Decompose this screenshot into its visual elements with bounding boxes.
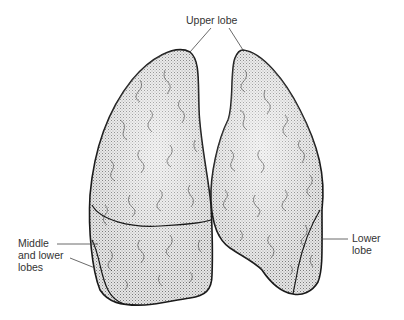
right-lung	[85, 45, 215, 310]
upper-lobe-leader-right	[190, 28, 211, 52]
lung-diagram: Upper lobe Middle and lower lobes Lower …	[0, 0, 404, 320]
label-lower-lobe-2: lobe	[352, 244, 372, 256]
left-lung	[205, 45, 330, 300]
label-middle-lower-1: Middle	[18, 237, 49, 249]
middle-lower-leader-2	[70, 258, 95, 268]
label-lower-lobe-1: Lower	[352, 232, 381, 244]
label-middle-lower-3: lobes	[18, 261, 43, 273]
label-middle-lower-2: and lower	[18, 249, 64, 261]
upper-lobe-leader-left	[229, 28, 243, 50]
label-upper-lobe: Upper lobe	[186, 14, 238, 26]
